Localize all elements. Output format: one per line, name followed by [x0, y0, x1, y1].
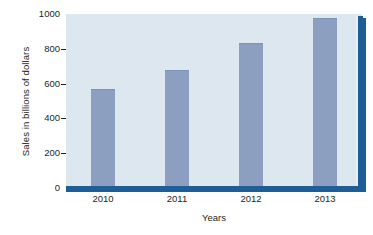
- y-axis-tick-labels: 02004006008001000: [32, 0, 60, 235]
- y-axis-tick-label: 200: [34, 148, 60, 158]
- x-axis-tick-label: 2010: [73, 194, 133, 204]
- plot-area: [66, 14, 362, 188]
- y-axis-tick-label: 0: [34, 183, 60, 193]
- x-axis-tick-label: 2013: [295, 194, 355, 204]
- bar: [313, 18, 337, 188]
- bar: [91, 89, 115, 188]
- bar-chart-figure: Sales in billions of dollars 02004006008…: [0, 0, 373, 235]
- bar: [165, 70, 189, 188]
- x-axis-tick-label: 2012: [221, 194, 281, 204]
- y-axis-tick-label: 600: [34, 79, 60, 89]
- y-axis-title-text: Sales in billions of dollars: [21, 47, 32, 156]
- y-axis-tick-label: 400: [34, 113, 60, 123]
- x-axis-tick-label: 2011: [147, 194, 207, 204]
- x-axis-title: Years: [66, 212, 362, 223]
- plot-right-edge-highlight: [356, 15, 358, 190]
- bar: [239, 43, 263, 188]
- y-axis-tick-label: 800: [34, 44, 60, 54]
- plot-right-edge: [358, 16, 363, 192]
- x-axis-baseline: [66, 186, 366, 192]
- y-axis-tick-label: 1000: [34, 9, 60, 19]
- x-axis-tick-labels: 2010201120122013: [66, 194, 362, 208]
